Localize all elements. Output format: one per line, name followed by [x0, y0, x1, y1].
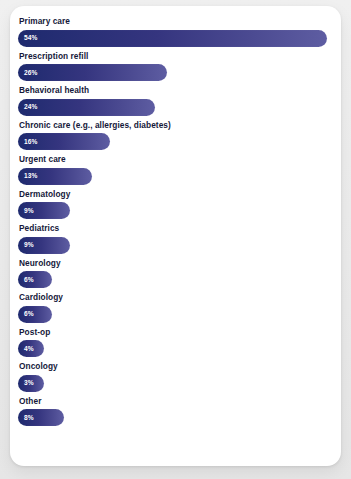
bar: 16% [18, 133, 110, 150]
bar-value-label: 26% [24, 69, 38, 77]
bar-category-label: Pediatrics [18, 223, 333, 234]
bar-track: 16% [18, 133, 333, 150]
bar: 13% [18, 168, 92, 185]
bar-track: 9% [18, 202, 333, 219]
bar-category-label: Prescription refill [18, 51, 333, 62]
bar-category-label: Other [18, 396, 333, 407]
bar-category-label: Oncology [18, 361, 333, 372]
bar-value-label: 3% [24, 379, 34, 387]
chart-card: Primary care54%Prescription refill26%Beh… [10, 6, 341, 466]
bar-track: 3% [18, 375, 333, 392]
bar-value-label: 24% [24, 103, 38, 111]
bar-track: 8% [18, 409, 333, 426]
bar: 9% [18, 202, 70, 219]
bar-value-label: 9% [24, 241, 34, 249]
bar: 54% [18, 30, 327, 47]
bar: 9% [18, 237, 70, 254]
bar-track: 9% [18, 237, 333, 254]
bar: 4% [18, 340, 44, 357]
bar-category-label: Dermatology [18, 189, 333, 200]
bar: 6% [18, 271, 52, 288]
bar-row: Other8% [18, 396, 333, 427]
bar-value-label: 6% [24, 276, 34, 284]
bar-value-label: 54% [24, 34, 38, 42]
bar-value-label: 6% [24, 310, 34, 318]
bar-row: Cardiology6% [18, 292, 333, 323]
bar: 8% [18, 409, 64, 426]
bar-track: 54% [18, 30, 333, 47]
bar-category-label: Post-op [18, 327, 333, 338]
bar-value-label: 8% [24, 414, 34, 422]
bar-row: Chronic care (e.g., allergies, diabetes)… [18, 120, 333, 151]
bar-category-label: Cardiology [18, 292, 333, 303]
bar-track: 4% [18, 340, 333, 357]
bar-track: 6% [18, 271, 333, 288]
page-background: Primary care54%Prescription refill26%Beh… [0, 0, 351, 479]
bar-category-label: Neurology [18, 258, 333, 269]
bar-row: Neurology6% [18, 258, 333, 289]
bar-row: Dermatology9% [18, 189, 333, 220]
horizontal-bar-chart: Primary care54%Prescription refill26%Beh… [18, 16, 333, 456]
bar-row: Behavioral health24% [18, 85, 333, 116]
bar: 3% [18, 375, 44, 392]
bar-track: 24% [18, 99, 333, 116]
bar-value-label: 9% [24, 207, 34, 215]
bar-row: Pediatrics9% [18, 223, 333, 254]
bar-row: Primary care54% [18, 16, 333, 47]
bar-row: Urgent care13% [18, 154, 333, 185]
bar-track: 6% [18, 306, 333, 323]
bar-category-label: Urgent care [18, 154, 333, 165]
bar-row: Prescription refill26% [18, 51, 333, 82]
bar-row: Post-op4% [18, 327, 333, 358]
bar: 6% [18, 306, 52, 323]
bar: 24% [18, 99, 155, 116]
bar-value-label: 4% [24, 345, 34, 353]
bar-row: Oncology3% [18, 361, 333, 392]
bar: 26% [18, 64, 167, 81]
bar-track: 13% [18, 168, 333, 185]
bar-value-label: 16% [24, 138, 38, 146]
bar-track: 26% [18, 64, 333, 81]
bar-category-label: Chronic care (e.g., allergies, diabetes) [18, 120, 333, 131]
bar-category-label: Behavioral health [18, 85, 333, 96]
bar-category-label: Primary care [18, 16, 333, 27]
bar-value-label: 13% [24, 172, 38, 180]
